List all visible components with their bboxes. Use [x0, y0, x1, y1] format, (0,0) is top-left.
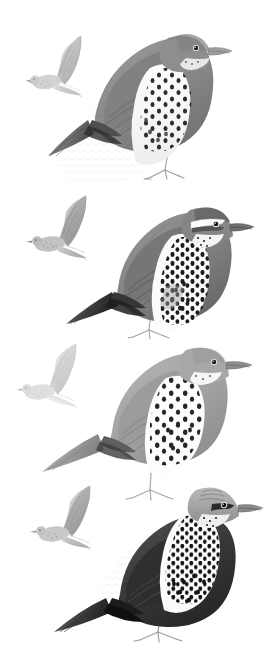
species-group-fieldfare: [30, 486, 263, 642]
plate-artwork: [0, 0, 270, 661]
flight-bird-fieldfare: [30, 486, 91, 550]
perched-bird-redwing: [66, 207, 254, 340]
perched-bird-mistle-thrush: [42, 347, 252, 500]
flight-bird-mistle-thrush: [16, 344, 77, 408]
species-group-redwing: [26, 196, 254, 340]
flight-bird-redwing: [26, 196, 87, 260]
thrush-identification-plate: Song Thrush Redwing Mistle Thrush Fieldf…: [0, 0, 270, 661]
flight-bird-song-thrush: [26, 36, 83, 97]
species-group-mistle-thrush: [16, 344, 252, 500]
species-group-song-thrush: [26, 34, 233, 190]
